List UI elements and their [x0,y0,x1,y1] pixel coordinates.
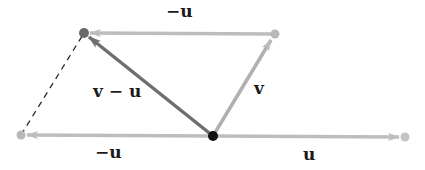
label-u: u [303,146,315,163]
label-v: v [254,80,264,97]
label-neg-u-bottom: −u [95,144,122,161]
label-v-minus-u: v − u [93,83,141,100]
v-minus-u-head-point [79,28,89,38]
v-head-point [271,30,280,39]
neg-u-vector-bottom [27,135,213,136]
u-vector [213,136,399,137]
dashed-parallelogram-edge [21,33,84,135]
neg-u-vector-top [90,33,275,34]
diagram-canvas [0,0,425,170]
label-neg-u-top: −u [166,3,193,20]
u-head-point [401,133,410,142]
neg-u-head-point [17,131,26,140]
vector-subtraction-diagram: −u v − u v −u u [0,0,425,170]
origin-point [208,131,218,141]
